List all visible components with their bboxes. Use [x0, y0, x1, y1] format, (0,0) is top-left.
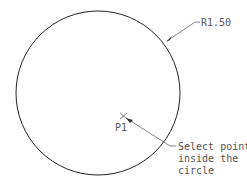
radius-arrowhead [166, 36, 172, 42]
callout-line-3: circle [178, 165, 214, 176]
point-label: P1 [115, 122, 127, 133]
callout-leader-line [126, 118, 176, 146]
callout-line-1: Select point [178, 141, 247, 152]
callout-line-2: inside the [178, 153, 238, 164]
circle [16, 11, 180, 175]
radius-leader-line [167, 22, 200, 41]
radius-label: R1.50 [201, 17, 231, 28]
